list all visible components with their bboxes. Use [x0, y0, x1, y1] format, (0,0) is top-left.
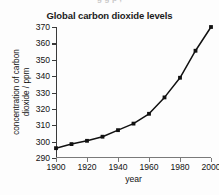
series-marker	[209, 25, 213, 29]
series-marker	[70, 142, 74, 146]
y-axis-tick-label: 310	[36, 120, 50, 130]
series-marker	[101, 135, 105, 139]
x-axis-tick-label: 2000	[201, 162, 219, 172]
y-axis-tick-label: 350	[36, 55, 50, 65]
data-series	[56, 27, 211, 158]
x-axis-tick-label: 1980	[170, 162, 189, 172]
chart-screenshot: g g p , Global carbon dioxide levels con…	[0, 0, 219, 195]
x-axis-tick-label: 1920	[77, 162, 96, 172]
y-axis-title: concentration of carbon dioxide / ppm	[8, 28, 36, 156]
y-axis-title-line2: dioxide / ppm	[22, 49, 32, 135]
x-axis-tick-label: 1960	[139, 162, 158, 172]
y-axis-title-text: concentration of carbon dioxide / ppm	[12, 49, 32, 135]
x-axis-tick-label: 1940	[108, 162, 127, 172]
x-axis-title: year	[56, 174, 211, 184]
y-axis-title-line1: concentration of carbon	[12, 49, 21, 135]
series-marker	[116, 128, 120, 132]
series-markers	[54, 25, 213, 150]
series-marker	[147, 112, 151, 116]
chart-title: Global carbon dioxide levels	[0, 10, 219, 21]
cropped-text-remnant-label: g g p ,	[97, 0, 122, 3]
series-marker	[178, 76, 182, 80]
plot-area: 290300310320330340350360370 190019201940…	[56, 27, 211, 158]
series-marker	[132, 122, 136, 126]
series-line	[56, 27, 211, 148]
cropped-text-remnant: g g p ,	[0, 0, 219, 6]
y-axis-tick-label: 320	[36, 104, 50, 114]
series-marker	[163, 96, 167, 100]
series-marker	[85, 139, 89, 143]
y-axis-tick-label: 370	[36, 22, 50, 32]
y-axis-tick-label: 340	[36, 71, 50, 81]
x-axis-tick-label: 1900	[46, 162, 65, 172]
y-axis-tick-label: 300	[36, 137, 50, 147]
y-axis-tick-label: 330	[36, 88, 50, 98]
series-marker	[194, 49, 198, 53]
y-axis-tick-label: 360	[36, 38, 50, 48]
series-marker	[54, 146, 58, 150]
